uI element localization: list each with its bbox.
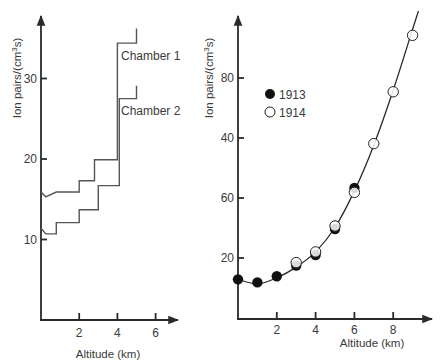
point-1914 bbox=[369, 138, 379, 148]
left-y-axis-title: Ion pairs/(cm3s) bbox=[10, 38, 23, 119]
point-1913 bbox=[252, 277, 262, 287]
right-chart-ionization-vs-altitude: 20604080 2468 1913 1914 Altitude (km) Io… bbox=[202, 11, 432, 349]
left-x-tick-label: 4 bbox=[114, 326, 121, 340]
series-1914-points bbox=[291, 30, 418, 268]
point-1913 bbox=[233, 274, 243, 284]
right-y-tick-label: 60 bbox=[221, 191, 235, 205]
point-1914 bbox=[407, 30, 417, 40]
left-chart-chamber-steps: 102030 246 Chamber 1 Chamber 2 Altitude … bbox=[10, 16, 181, 360]
left-y-tick-label: 10 bbox=[24, 233, 38, 247]
point-1913 bbox=[272, 271, 282, 281]
left-y-ticks: 102030 bbox=[24, 72, 47, 247]
point-1914 bbox=[349, 187, 359, 197]
right-x-axis-title: Altitude (km) bbox=[340, 337, 405, 349]
legend-1914-marker bbox=[265, 107, 275, 117]
left-x-tick-label: 2 bbox=[76, 326, 83, 340]
series-1913-points bbox=[233, 183, 360, 288]
left-y-tick-label: 30 bbox=[24, 72, 38, 86]
point-1914 bbox=[388, 87, 398, 97]
right-y-tick-label: 80 bbox=[221, 71, 235, 85]
right-x-tick-label: 2 bbox=[273, 323, 280, 337]
point-1914 bbox=[291, 257, 301, 267]
figure: 102030 246 Chamber 1 Chamber 2 Altitude … bbox=[0, 0, 446, 364]
left-x-ticks: 246 bbox=[76, 313, 159, 340]
legend-1913-marker bbox=[265, 89, 275, 99]
point-1914 bbox=[310, 247, 320, 257]
legend: 1913 1914 bbox=[265, 88, 306, 120]
legend-1914-label: 1914 bbox=[279, 106, 306, 120]
left-y-tick-label: 20 bbox=[24, 152, 38, 166]
fit-curve bbox=[238, 11, 418, 284]
chamber-1-label: Chamber 1 bbox=[121, 49, 181, 63]
chamber-2-label: Chamber 2 bbox=[121, 104, 181, 118]
right-y-axis-title: Ion pairs/(cm3s) bbox=[202, 38, 215, 119]
point-1914 bbox=[330, 221, 340, 231]
left-x-tick-label: 6 bbox=[152, 326, 159, 340]
right-y-ticks: 20604080 bbox=[221, 71, 244, 265]
left-x-axis-title: Altitude (km) bbox=[76, 348, 141, 360]
right-x-tick-label: 6 bbox=[351, 323, 358, 337]
right-y-tick-label: 20 bbox=[221, 251, 235, 265]
right-x-tick-label: 8 bbox=[390, 323, 397, 337]
legend-1913-label: 1913 bbox=[279, 88, 306, 102]
right-y-tick-label: 40 bbox=[221, 131, 235, 145]
right-x-ticks: 2468 bbox=[273, 312, 396, 337]
right-x-tick-label: 4 bbox=[312, 323, 319, 337]
